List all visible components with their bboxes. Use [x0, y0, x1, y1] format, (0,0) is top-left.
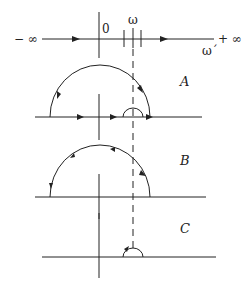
origin-label: 0 [102, 22, 110, 36]
panel-a-contour [35, 65, 202, 140]
omega-prime-label: ω´ [202, 44, 218, 58]
arrow-icon [160, 36, 168, 42]
plus-infinity-label: + ∞ [218, 32, 242, 46]
panel-a-label: A [179, 74, 189, 89]
contour-diagram: − ∞ + ∞ 0 ω ω´ A B C [0, 0, 252, 289]
panel-b-label: B [179, 153, 190, 168]
minus-infinity-label: − ∞ [14, 32, 38, 46]
omega-label: ω [128, 13, 138, 27]
panel-c-label: C [180, 221, 190, 236]
arrow-icon [72, 36, 80, 42]
